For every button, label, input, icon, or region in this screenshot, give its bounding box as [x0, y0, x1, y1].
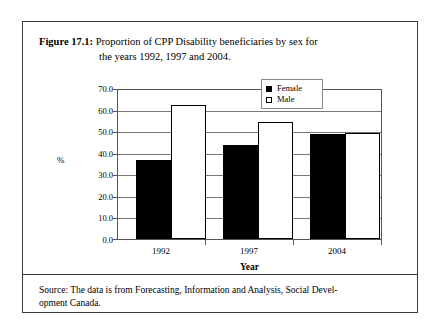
figure-caption: Figure 17.1: Proportion of CPP Disabilit… [39, 35, 399, 64]
y-tick-label: 20.0 [77, 193, 113, 202]
legend-item-male: Male [266, 94, 318, 105]
legend-swatch-open-square-icon [266, 97, 272, 103]
bar-male-2004 [345, 133, 380, 239]
bars-layer [118, 90, 381, 239]
source-note-divider [23, 274, 417, 275]
y-tick-label: 30.0 [77, 171, 113, 180]
chart-region: % 70.0 60.0 50.0 40.0 30.0 20.0 10.0 0.0 [39, 77, 403, 277]
figure-caption-line-1: Proportion of CPP Disability beneficiari… [96, 36, 318, 47]
legend-label-female: Female [277, 84, 302, 93]
bar-female-1992 [136, 160, 171, 239]
y-tick-label: 50.0 [77, 128, 113, 137]
source-note-line-2: opment Canada. [39, 298, 101, 308]
bar-male-1997 [258, 122, 293, 239]
x-tick-label-1992: 1992 [131, 246, 191, 256]
figure-number: Figure 17.1: [39, 36, 93, 47]
source-note: Source: The data is from Forecasting, In… [39, 284, 403, 310]
y-tick-label: 40.0 [77, 150, 113, 159]
y-tick-label: 0.0 [77, 236, 113, 245]
bar-female-1997 [223, 145, 258, 239]
y-axis-tick-labels: 70.0 60.0 50.0 40.0 30.0 20.0 10.0 0.0 [69, 89, 113, 240]
y-tick-label: 10.0 [77, 214, 113, 223]
y-axis-title: % [57, 155, 65, 165]
x-tick-label-1997: 1997 [219, 246, 279, 256]
y-tick-label: 70.0 [77, 85, 113, 94]
figure-box: Figure 17.1: Proportion of CPP Disabilit… [22, 21, 418, 313]
figure-caption-line-2: the years 1992, 1997 and 2004. [99, 50, 399, 65]
chart-legend: Female Male [261, 79, 323, 109]
legend-label-male: Male [277, 95, 294, 104]
x-axis-tick-marks [117, 240, 382, 245]
y-tick-label: 60.0 [77, 107, 113, 116]
x-tick-label-2004: 2004 [307, 246, 367, 256]
bar-female-2004 [310, 134, 345, 239]
x-axis-title: Year [117, 262, 382, 272]
x-axis-tick-labels: 1992 1997 2004 [117, 246, 382, 260]
source-note-line-1: Source: The data is from Forecasting, In… [39, 285, 337, 295]
bar-male-1992 [171, 105, 206, 239]
legend-item-female: Female [266, 83, 318, 94]
legend-swatch-filled-square-icon [266, 86, 272, 92]
